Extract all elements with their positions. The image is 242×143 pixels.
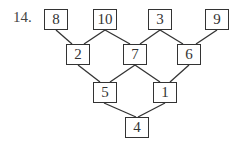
pyramid-cell-r0-c2: 3 (148, 9, 172, 30)
pyramid-cell-r0-c3: 9 (205, 9, 229, 30)
pyramid-cell-r0-c1: 10 (93, 9, 117, 30)
pyramid-cell-r2-c0: 5 (93, 82, 117, 103)
pyramid-cell-r1-c2: 6 (177, 44, 201, 65)
pyramid-cell-r0-c0: 8 (44, 9, 68, 30)
pyramid-cell-r1-c0: 2 (66, 44, 90, 65)
pyramid-cell-r1-c1: 7 (123, 44, 147, 65)
pyramid-cell-r2-c1: 1 (153, 82, 177, 103)
pyramid-cell-r3-c0: 4 (125, 117, 149, 138)
